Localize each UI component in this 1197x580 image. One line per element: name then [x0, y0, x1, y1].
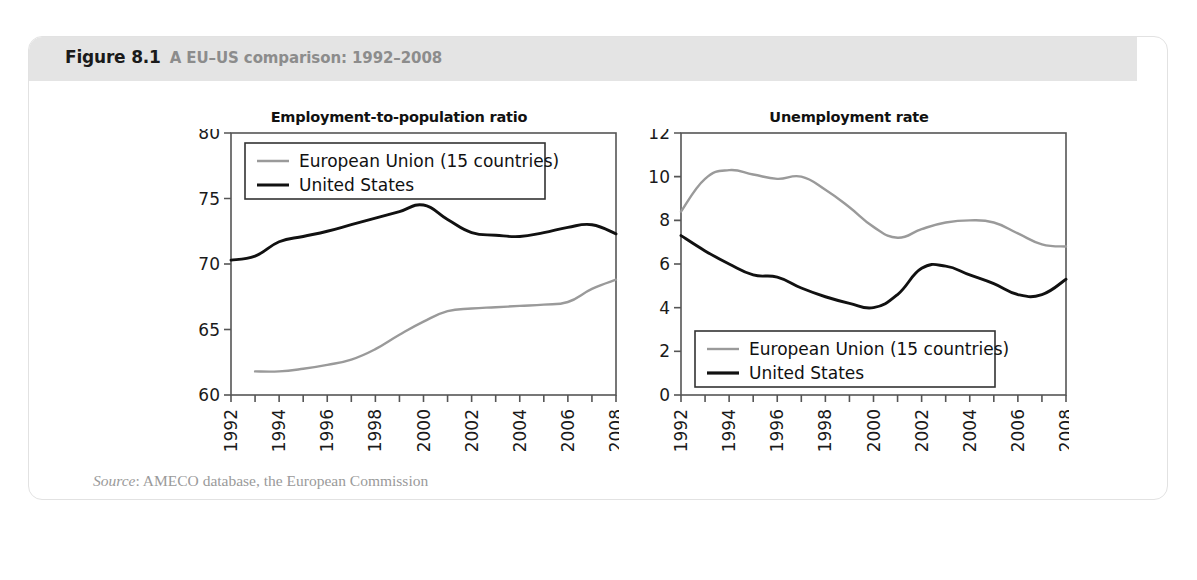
plots-container: Employment-to-population ratio 606570758… — [29, 81, 1167, 499]
x-tick-label: 2008 — [1056, 409, 1069, 452]
x-tick-label: 1998 — [815, 409, 835, 452]
panel-employment-ratio: Employment-to-population ratio 606570758… — [179, 81, 619, 499]
legend-label: United States — [299, 175, 414, 195]
y-tick-label: 65 — [198, 320, 220, 340]
x-tick-label: 1992 — [671, 409, 691, 452]
x-tick-label: 1998 — [365, 409, 385, 452]
chart-employment-ratio: 6065707580199219941996199820002002200420… — [179, 129, 619, 459]
figure-number: Figure 8.1 — [65, 47, 161, 67]
series-line — [255, 280, 616, 372]
panel-title-employment: Employment-to-population ratio — [179, 109, 619, 125]
source-label: Source — [93, 472, 135, 489]
y-tick-label: 4 — [659, 298, 670, 318]
x-tick-label: 2006 — [558, 409, 578, 452]
x-tick-label: 2000 — [414, 409, 434, 452]
y-tick-label: 12 — [648, 129, 670, 143]
figure-caption: Figure 8.1A EU–US comparison: 1992–2008 — [65, 47, 442, 67]
x-tick-label: 2004 — [960, 409, 980, 452]
x-tick-label: 1994 — [269, 409, 289, 452]
source-text: : AMECO database, the European Commissio… — [135, 472, 428, 489]
y-tick-label: 6 — [659, 254, 670, 274]
legend-label: European Union (15 countries) — [749, 339, 1009, 359]
x-tick-label: 2004 — [510, 409, 530, 452]
x-tick-label: 1996 — [767, 409, 787, 452]
figure-title: A EU–US comparison: 1992–2008 — [170, 49, 442, 67]
x-tick-label: 1992 — [221, 409, 241, 452]
legend-label: United States — [749, 363, 864, 383]
y-tick-label: 2 — [659, 341, 670, 361]
y-tick-label: 80 — [198, 129, 220, 143]
legend-label: European Union (15 countries) — [299, 151, 559, 171]
source-note: Source: AMECO database, the European Com… — [93, 472, 428, 490]
y-tick-label: 70 — [198, 254, 220, 274]
x-tick-label: 2002 — [912, 409, 932, 452]
x-tick-label: 1994 — [719, 409, 739, 452]
y-tick-label: 75 — [198, 189, 220, 209]
series-line — [231, 205, 616, 260]
x-tick-label: 2006 — [1008, 409, 1028, 452]
y-tick-label: 10 — [648, 167, 670, 187]
figure-card: Figure 8.1A EU–US comparison: 1992–2008 … — [28, 36, 1168, 500]
series-line — [681, 236, 1066, 309]
panel-title-unemployment: Unemployment rate — [629, 109, 1069, 125]
x-tick-label: 2008 — [606, 409, 619, 452]
x-tick-label: 2000 — [864, 409, 884, 452]
y-tick-label: 0 — [659, 385, 670, 405]
x-tick-label: 2002 — [462, 409, 482, 452]
y-tick-label: 8 — [659, 210, 670, 230]
panel-unemployment-rate: Unemployment rate 0246810121992199419961… — [629, 81, 1069, 499]
series-line — [681, 170, 1066, 247]
x-tick-label: 1996 — [317, 409, 337, 452]
y-tick-label: 60 — [198, 385, 220, 405]
chart-unemployment-rate: 0246810121992199419961998200020022004200… — [629, 129, 1069, 459]
